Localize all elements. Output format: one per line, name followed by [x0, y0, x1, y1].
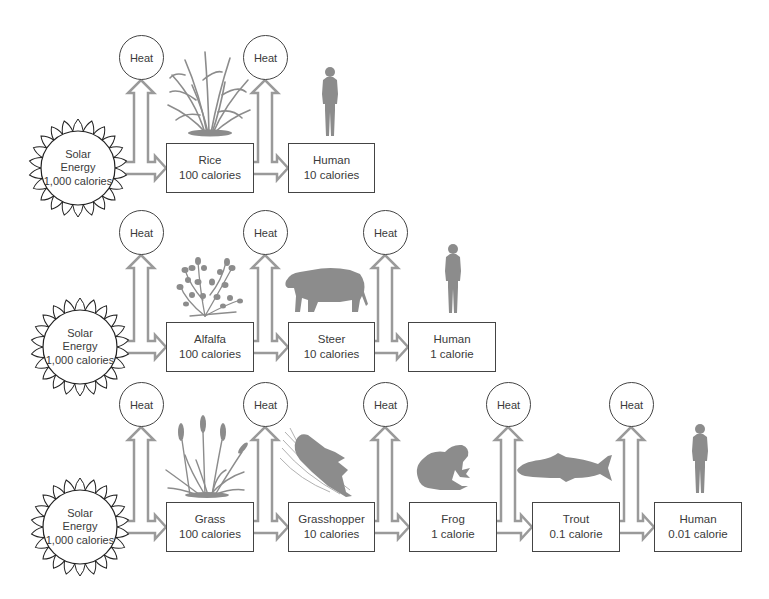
source-energy: 1,000 calories — [46, 354, 115, 368]
alfalfa-plant-icon — [177, 257, 244, 316]
solar-energy-label: Solar Energy 1,000 calories — [36, 147, 120, 189]
trophic-level-box: Trout 0.1 calorie — [532, 502, 620, 552]
trophic-level-box: Frog 1 calorie — [409, 502, 497, 552]
heat-loss-circle: Heat — [243, 35, 288, 80]
trophic-level-box: Human 1 calorie — [408, 322, 496, 372]
energy-value: 0.1 calorie — [549, 527, 602, 542]
organism-name: Rice — [198, 153, 221, 168]
trophic-level-box: Human 0.01 calorie — [654, 502, 742, 552]
energy-flow-arrow — [495, 427, 532, 539]
source-line: Energy — [63, 520, 98, 534]
organism-name: Grass — [195, 512, 226, 527]
organism-name: Frog — [441, 512, 465, 527]
human-icon — [445, 244, 461, 313]
organism-name: Trout — [563, 512, 589, 527]
heat-loss-circle: Heat — [363, 210, 408, 255]
food-chain-diagram: Solar Energy 1,000 calories Solar Energy… — [0, 0, 769, 599]
organism-name: Steer — [318, 332, 346, 347]
energy-flow-arrow — [252, 255, 288, 359]
heat-loss-circle: Heat — [609, 382, 654, 427]
energy-value: 0.01 calorie — [668, 527, 727, 542]
trophic-level-box: Grasshopper 10 calories — [288, 502, 375, 552]
trophic-level-box: Human 10 calories — [288, 143, 375, 193]
heat-loss-circle: Heat — [119, 382, 164, 427]
organism-name: Human — [313, 153, 350, 168]
energy-value: 100 calories — [179, 347, 241, 362]
energy-value: 10 calories — [304, 527, 360, 542]
energy-value: 100 calories — [179, 168, 241, 183]
source-energy: 1,000 calories — [44, 175, 113, 189]
energy-flow-arrow — [252, 427, 288, 539]
heat-loss-circle: Heat — [119, 210, 164, 255]
human-icon — [692, 424, 708, 493]
grass-icon — [166, 415, 249, 498]
grasshopper-icon — [280, 428, 352, 497]
source-line: Solar — [65, 148, 91, 162]
source-line: Solar — [67, 327, 93, 341]
source-line: Energy — [63, 340, 98, 354]
heat-loss-circle: Heat — [486, 382, 531, 427]
steer-icon — [285, 268, 368, 312]
heat-loss-circle: Heat — [363, 382, 408, 427]
energy-flow-arrow — [372, 427, 409, 539]
human-icon — [322, 67, 338, 136]
frog-icon — [417, 445, 470, 490]
energy-value: 100 calories — [179, 527, 241, 542]
source-energy: 1,000 calories — [46, 534, 115, 548]
trophic-level-box: Steer 10 calories — [288, 322, 375, 372]
organism-name: Grasshopper — [298, 512, 364, 527]
energy-value: 1 calorie — [431, 527, 474, 542]
heat-loss-circle: Heat — [119, 35, 164, 80]
trophic-level-box: Rice 100 calories — [166, 143, 254, 193]
organism-name: Human — [679, 512, 716, 527]
energy-value: 1 calorie — [430, 347, 473, 362]
rice-plant-icon — [168, 52, 250, 137]
energy-flow-arrow — [618, 427, 654, 539]
trophic-level-box: Grass 100 calories — [166, 502, 254, 552]
solar-energy-label: Solar Energy 1,000 calories — [38, 326, 122, 368]
source-line: Energy — [61, 161, 96, 175]
source-line: Solar — [67, 507, 93, 521]
organism-name: Human — [433, 332, 470, 347]
energy-flow-arrow — [252, 80, 288, 180]
trout-icon — [517, 453, 612, 482]
heat-loss-circle: Heat — [243, 210, 288, 255]
organism-name: Alfalfa — [194, 332, 226, 347]
energy-value: 10 calories — [304, 347, 360, 362]
energy-flow-arrow — [372, 255, 408, 359]
trophic-level-box: Alfalfa 100 calories — [166, 322, 254, 372]
heat-loss-circle: Heat — [243, 382, 288, 427]
energy-value: 10 calories — [304, 168, 360, 183]
solar-energy-label: Solar Energy 1,000 calories — [38, 506, 122, 548]
